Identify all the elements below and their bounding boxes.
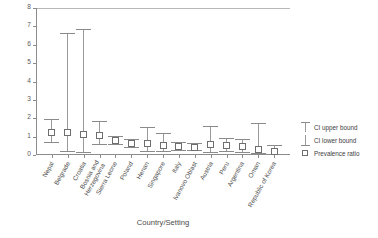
chart-page: PR of any resistance 012345678 NepalBelg… — [0, 0, 378, 238]
chart-legend: CI upper boundCI lower boundPrevalence r… — [300, 121, 376, 160]
x-axis-title: Country/Setting — [36, 218, 290, 227]
x-tick-mark — [227, 155, 228, 158]
legend-glyph-prevalence-ratio — [300, 147, 312, 160]
legend-item-ci-lower[interactable]: CI lower bound — [300, 134, 376, 147]
y-tick-mark — [33, 155, 36, 156]
y-tick-label: 1 — [27, 132, 31, 139]
x-tick-mark — [84, 155, 85, 158]
y-tick-label: 5 — [27, 58, 31, 65]
x-tick-mark — [100, 155, 101, 158]
legend-line — [305, 135, 306, 145]
legend-square — [302, 150, 308, 156]
x-tick-mark — [179, 155, 180, 158]
ci-upper-cap — [76, 29, 91, 30]
legend-item-ci-upper[interactable]: CI upper bound — [300, 121, 376, 134]
ci-upper-cap — [92, 121, 107, 122]
legend-cap — [301, 122, 310, 123]
prevalence-ratio-marker[interactable] — [191, 144, 198, 151]
y-tick-label: 8 — [27, 3, 31, 10]
legend-glyph-ci-lower — [300, 134, 312, 147]
ci-upper-cap — [140, 127, 155, 128]
x-tick-mark — [195, 155, 196, 158]
prevalence-ratio-marker[interactable] — [96, 132, 103, 139]
legend-line — [305, 122, 306, 132]
x-tick-mark — [68, 155, 69, 158]
y-tick-label: 2 — [27, 113, 31, 120]
ci-upper-cap — [235, 139, 250, 140]
y-tick-label: 4 — [27, 77, 31, 84]
prevalence-ratio-marker[interactable] — [48, 129, 55, 136]
y-tick-label: 0 — [27, 150, 31, 157]
legend-label: CI lower bound — [314, 137, 356, 144]
legend-glyph-ci-upper — [300, 121, 312, 134]
legend-label: CI upper bound — [314, 124, 357, 131]
y-tick-label: 3 — [27, 95, 31, 102]
legend-label: Prevalence ratio — [314, 150, 360, 157]
ci-upper-cap — [267, 145, 282, 146]
x-tick-mark — [163, 155, 164, 158]
legend-item-prevalence-ratio[interactable]: Prevalence ratio — [300, 147, 376, 160]
x-tick-mark — [52, 155, 53, 158]
ci-upper-cap — [219, 138, 234, 139]
y-tick-label: 7 — [27, 21, 31, 28]
ci-upper-cap — [44, 119, 59, 120]
ci-upper-cap — [251, 123, 266, 124]
prevalence-ratio-marker[interactable] — [239, 143, 246, 150]
ci-upper-cap — [60, 33, 75, 34]
legend-cap — [301, 145, 310, 146]
prevalence-ratio-marker[interactable] — [64, 129, 71, 136]
ci-upper-cap — [156, 133, 171, 134]
y-tick-label: 6 — [27, 40, 31, 47]
ci-lower-cap — [44, 142, 59, 143]
x-tick-mark — [211, 155, 212, 158]
prevalence-ratio-marker[interactable] — [80, 131, 87, 138]
plot-area: 012345678 NepalBelgradeCroatiaBosnia and… — [36, 8, 290, 155]
data-series-layer — [36, 8, 290, 155]
